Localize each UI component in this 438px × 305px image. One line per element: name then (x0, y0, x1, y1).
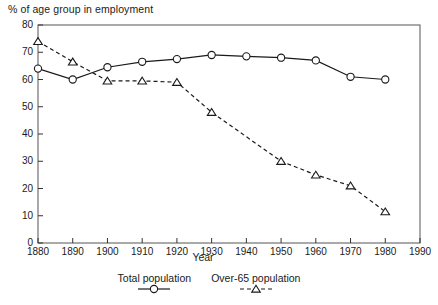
y-tick-label: 80 (11, 19, 33, 30)
legend-item-total-population: Total population (118, 272, 192, 295)
y-tick-label: 70 (11, 46, 33, 57)
y-tick-label: 30 (11, 155, 33, 166)
axis-ticks (38, 25, 420, 243)
series-total-population (34, 51, 388, 83)
chart-legend: Total populationOver-65 population (0, 272, 438, 295)
x-axis-title: Year (0, 251, 438, 263)
plot-frame (38, 25, 420, 243)
legend-triangle-marker-icon (211, 283, 300, 295)
x-axis-title-text: Year (192, 251, 213, 263)
y-tick-label: 40 (11, 128, 33, 139)
series-over-65-population (34, 38, 390, 215)
y-tick-label: 20 (11, 183, 33, 194)
y-tick-label: 50 (11, 101, 33, 112)
legend-item-over-65-population: Over-65 population (211, 272, 300, 295)
y-tick-label: 60 (11, 74, 33, 85)
y-tick-label: 10 (11, 210, 33, 221)
data-series-layer (34, 38, 390, 215)
chart-figure: % of age group in employment 80706050403… (0, 0, 438, 305)
legend-circle-marker-icon (118, 283, 192, 295)
